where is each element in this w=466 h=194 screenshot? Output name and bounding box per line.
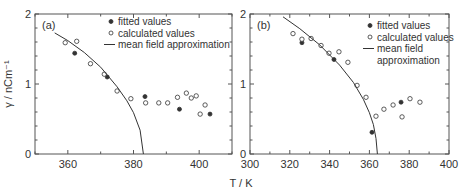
- calculated-value-point: [408, 97, 412, 101]
- x-tick-label: 360: [59, 158, 77, 170]
- fitted-value-point: [73, 51, 77, 55]
- calculated-value-point: [175, 95, 179, 99]
- legend-label: calculated values: [118, 28, 195, 39]
- x-axis-title: T / K: [229, 177, 253, 189]
- panel-label: (a): [42, 19, 55, 31]
- calculated-value-point: [400, 115, 404, 119]
- calculated-value-point: [184, 91, 188, 95]
- y-tick-label: 0: [240, 148, 246, 160]
- x-tick-label: 400: [190, 158, 208, 170]
- y-tick-label: 2: [240, 8, 246, 20]
- x-tick-label: 320: [281, 158, 299, 170]
- calculated-value-point: [143, 101, 147, 105]
- calculated-value-point: [189, 96, 193, 100]
- legend-label: calculated values: [377, 32, 454, 43]
- chart-panel-b: 300320340360380400012(b)fitted valuescal…: [240, 8, 458, 170]
- calculated-value-point: [194, 94, 198, 98]
- y-tick-label: 0: [25, 148, 31, 160]
- y-tick-label: 1: [240, 78, 246, 90]
- mean-field-curve: [55, 33, 144, 154]
- fitted-value-point: [177, 107, 181, 111]
- calculated-value-point: [319, 43, 323, 47]
- calculated-value-point: [291, 31, 295, 35]
- calculated-value-point: [129, 97, 133, 101]
- legend-open-marker: [368, 35, 372, 39]
- calculated-value-point: [157, 101, 161, 105]
- calculated-value-point: [198, 112, 202, 116]
- x-tick-label: 380: [124, 158, 142, 170]
- x-tick-label: 340: [320, 158, 338, 170]
- legend-label: mean field approximation: [118, 39, 230, 50]
- y-axis-title: γ / nCm⁻¹: [2, 60, 14, 108]
- chart-panel-a: 360380400012(a)fitted valuescalculated v…: [25, 8, 232, 170]
- legend-label: fitted values: [377, 20, 430, 31]
- calculated-value-point: [203, 103, 207, 107]
- fitted-value-point: [399, 100, 403, 104]
- y-tick-label: 1: [25, 78, 31, 90]
- legend: fitted valuescalculated valuesmean field…: [363, 20, 454, 66]
- fitted-value-point: [370, 130, 374, 134]
- calculated-value-point: [63, 41, 67, 45]
- legend-label: approximation: [377, 55, 440, 66]
- legend-filled-marker: [109, 20, 113, 24]
- chart-figure: 360380400012(a)fitted valuescalculated v…: [0, 0, 466, 194]
- fitted-value-point: [143, 95, 147, 99]
- calculated-value-point: [300, 37, 304, 41]
- calculated-value-point: [74, 39, 78, 43]
- calculated-value-point: [364, 95, 368, 99]
- fitted-value-point: [208, 112, 212, 116]
- legend: fitted valuescalculated valuesmean field…: [104, 16, 230, 50]
- chart-svg: 360380400012(a)fitted valuescalculated v…: [0, 0, 466, 194]
- calculated-value-point: [165, 101, 169, 105]
- x-tick-label: 400: [440, 158, 458, 170]
- legend-label: fitted values: [118, 16, 171, 27]
- calculated-value-point: [88, 62, 92, 66]
- calculated-value-point: [374, 114, 378, 118]
- legend-open-marker: [109, 31, 113, 35]
- calculated-value-point: [337, 50, 341, 54]
- panel-label: (b): [257, 19, 270, 31]
- x-tick-label: 380: [400, 158, 418, 170]
- calculated-value-point: [418, 100, 422, 104]
- legend-filled-marker: [368, 24, 372, 28]
- legend-label: mean field: [377, 43, 423, 54]
- mean-field-curve: [283, 17, 377, 154]
- y-tick-label: 2: [25, 8, 31, 20]
- calculated-value-point: [391, 103, 395, 107]
- calculated-value-point: [346, 60, 350, 64]
- calculated-value-point: [382, 107, 386, 111]
- x-tick-label: 360: [360, 158, 378, 170]
